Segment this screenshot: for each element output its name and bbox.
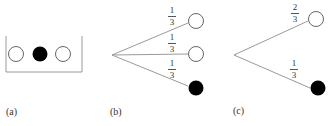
prob-b-1: 1 3 bbox=[168, 6, 176, 27]
prob-b-3: 1 3 bbox=[168, 59, 176, 80]
ball-black bbox=[33, 47, 48, 62]
outcome-c-2-black bbox=[311, 81, 326, 96]
panel-a-label: (a) bbox=[6, 106, 17, 117]
branch-b-1 bbox=[112, 23, 188, 55]
outcome-b-2-white bbox=[189, 47, 204, 62]
branch-c-2 bbox=[234, 55, 310, 88]
panel-b-label: (b) bbox=[110, 106, 122, 117]
branch-b-2 bbox=[112, 54, 188, 55]
branch-b-3 bbox=[112, 55, 188, 86]
diagram-canvas bbox=[0, 0, 331, 126]
outcome-b-1-white bbox=[189, 14, 204, 29]
ball-white-2 bbox=[56, 47, 71, 62]
panel-c-label: (c) bbox=[233, 105, 244, 116]
branch-c-1 bbox=[234, 21, 308, 55]
prob-c-2: 1 3 bbox=[290, 59, 298, 80]
prob-b-2: 1 3 bbox=[168, 33, 176, 54]
panel-a-urn bbox=[6, 36, 82, 72]
outcome-b-3-black bbox=[189, 81, 204, 96]
ball-white-1 bbox=[9, 47, 24, 62]
panel-b-tree bbox=[112, 14, 204, 96]
panel-c-tree bbox=[234, 12, 326, 96]
outcome-c-1-white bbox=[309, 12, 324, 27]
prob-c-1: 2 3 bbox=[291, 3, 299, 24]
